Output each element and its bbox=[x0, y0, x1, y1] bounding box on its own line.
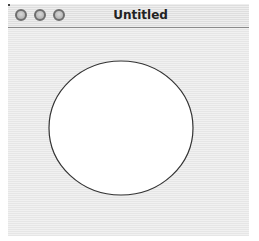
ellipse-shape[interactable] bbox=[49, 61, 193, 195]
ellipse-layer bbox=[0, 0, 259, 241]
